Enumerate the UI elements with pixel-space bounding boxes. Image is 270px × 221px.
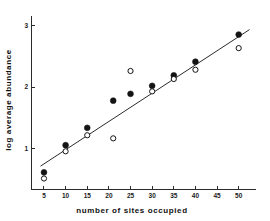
y-tick-label: 2 <box>24 83 28 90</box>
data-point-filled <box>193 59 199 65</box>
data-point-filled <box>110 98 116 104</box>
tick-labels: 5101520253035404550123 <box>24 22 242 199</box>
x-tick-label: 25 <box>127 192 135 199</box>
data-point-open <box>41 176 46 181</box>
x-tick-label: 10 <box>62 192 70 199</box>
x-tick-label: 20 <box>105 192 113 199</box>
x-tick-label: 40 <box>192 192 200 199</box>
y-axis-title: log average abundance <box>4 49 13 151</box>
data-point-filled <box>84 125 90 131</box>
x-tick-label: 30 <box>149 192 157 199</box>
data-point-open <box>128 68 133 73</box>
plot-canvas: 5101520253035404550123 number of sites o… <box>0 0 270 221</box>
data-point-filled <box>236 32 242 38</box>
data-point-filled <box>63 142 69 148</box>
data-point-open <box>236 46 241 51</box>
data-point-filled <box>41 169 47 175</box>
data-point-open <box>111 136 116 141</box>
data-point-open <box>63 149 68 154</box>
x-tick-label: 5 <box>42 192 46 199</box>
y-tick-label: 1 <box>24 145 28 152</box>
data-point-open <box>150 89 155 94</box>
x-axis-title: number of sites occupied <box>76 206 187 215</box>
data-point-filled <box>149 83 155 89</box>
regression-line <box>41 30 250 167</box>
data-point-open <box>193 67 198 72</box>
x-tick-label: 35 <box>170 192 178 199</box>
x-tick-label: 45 <box>213 192 221 199</box>
data-point-open <box>85 133 90 138</box>
x-tick-label: 15 <box>84 192 92 199</box>
x-tick-label: 50 <box>235 192 243 199</box>
y-tick-label: 3 <box>24 22 28 29</box>
regression-line <box>41 30 250 167</box>
axes <box>31 16 256 189</box>
tick-marks <box>31 25 239 189</box>
scatter-chart-figure: 5101520253035404550123 number of sites o… <box>0 0 270 221</box>
data-point-filled <box>128 91 134 97</box>
data-point-open <box>171 76 176 81</box>
